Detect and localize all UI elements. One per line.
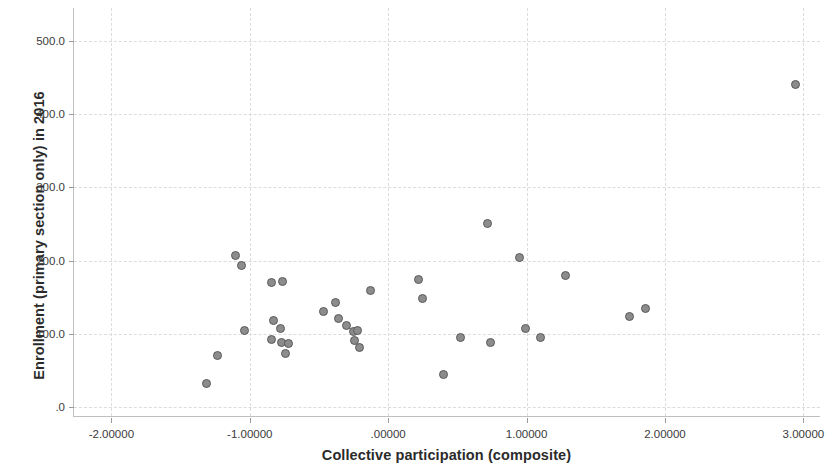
data-point (625, 312, 634, 321)
data-point (439, 370, 448, 379)
x-axis-tick (250, 418, 251, 423)
x-axis-tick-label: 2.00000 (644, 428, 686, 440)
data-point (319, 307, 328, 316)
data-point (331, 298, 340, 307)
data-point (515, 253, 524, 262)
data-point (237, 261, 246, 270)
y-axis-tick-label: 300.0 (36, 181, 65, 193)
y-axis-title: Enrollment (primary section only) in 201… (26, 0, 52, 471)
y-axis-tick-label: 500.0 (36, 35, 65, 47)
x-axis-tick-label: 3.00000 (783, 428, 825, 440)
x-axis-tick (803, 418, 804, 423)
data-point (353, 326, 362, 335)
data-point (486, 338, 495, 347)
data-point (267, 278, 276, 287)
x-axis-tick (111, 418, 112, 423)
y-axis-tick-label: 400.0 (36, 108, 65, 120)
x-axis-tick (527, 418, 528, 423)
x-axis-tick-label: -2.00000 (89, 428, 134, 440)
x-axis-tick-label: 1.00000 (506, 428, 548, 440)
data-point (278, 277, 287, 286)
data-point (276, 324, 285, 333)
plot-area: -2.00000-1.00000.000001.000002.000003.00… (73, 8, 820, 417)
data-points-layer (74, 8, 820, 416)
y-axis-tick-label: 100.0 (36, 328, 65, 340)
data-point (483, 219, 492, 228)
data-point (536, 333, 545, 342)
data-point (281, 349, 290, 358)
x-axis-tick-label: -1.00000 (227, 428, 272, 440)
data-point (269, 316, 278, 325)
data-point (240, 326, 249, 335)
data-point (641, 304, 650, 313)
x-axis-tick (665, 418, 666, 423)
scatter-chart: Enrollment (primary section only) in 201… (0, 0, 835, 471)
data-point (231, 251, 240, 260)
data-point (202, 379, 211, 388)
data-point (456, 333, 465, 342)
data-point (267, 335, 276, 344)
data-point (213, 351, 222, 360)
data-point (414, 275, 423, 284)
data-point (418, 294, 427, 303)
x-axis-title: Collective participation (composite) (73, 447, 820, 463)
x-axis-tick (388, 418, 389, 423)
y-axis-tick-label: .0 (55, 401, 65, 413)
data-point (561, 271, 570, 280)
data-point (334, 314, 343, 323)
data-point (521, 324, 530, 333)
data-point (284, 339, 293, 348)
x-axis-tick-label: .00000 (371, 428, 406, 440)
data-point (366, 286, 375, 295)
y-axis-tick-label: 200.0 (36, 255, 65, 267)
data-point (791, 80, 800, 89)
data-point (355, 343, 364, 352)
